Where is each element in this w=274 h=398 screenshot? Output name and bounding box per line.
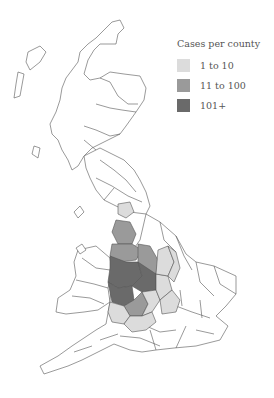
scotland-outline: [50, 20, 146, 170]
northern-england: [84, 148, 150, 214]
legend-item-101-plus: 101+: [177, 97, 274, 114]
legend-label: 1 to 10: [200, 60, 234, 71]
scottish-islands: [14, 46, 46, 158]
legend: Cases per county 1 to 10 11 to 100 101+: [177, 38, 274, 117]
legend-label: 11 to 100: [200, 80, 246, 91]
legend-swatch-medium: [177, 79, 190, 92]
legend-swatch-dark: [177, 99, 190, 112]
legend-title: Cases per county: [177, 38, 274, 49]
legend-item-11-to-100: 11 to 100: [177, 77, 274, 94]
legend-item-1-to-10: 1 to 10: [177, 57, 274, 74]
legend-label: 101+: [200, 100, 226, 111]
isle-of-man: [74, 206, 84, 218]
legend-swatch-light: [177, 59, 190, 72]
county-shaded-mid-lancashire: [112, 220, 136, 244]
